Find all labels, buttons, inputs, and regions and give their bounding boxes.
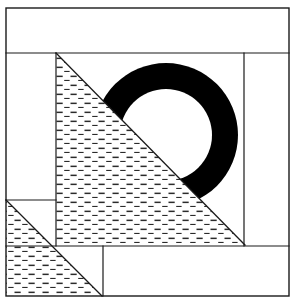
quilt-block-diagram: [0, 0, 295, 304]
figure-container: [0, 0, 295, 304]
